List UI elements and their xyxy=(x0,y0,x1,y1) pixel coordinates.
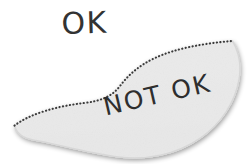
figure-canvas: OK NOT OK xyxy=(0,0,251,164)
region-paper-grain xyxy=(0,0,251,164)
region-diagram-svg xyxy=(0,0,251,164)
